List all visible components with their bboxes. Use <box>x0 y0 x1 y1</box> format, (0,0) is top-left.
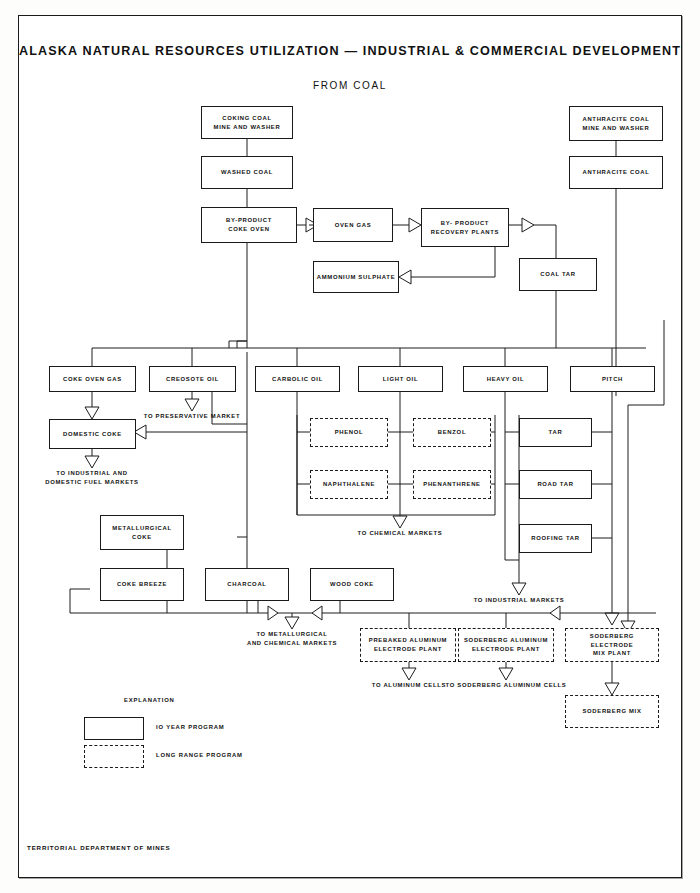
footer-credit: TERRITORIAL DEPARTMENT OF MINES <box>27 844 171 851</box>
node-line1: WOOD COKE <box>330 580 374 589</box>
node-line2: MINE AND WASHER <box>214 123 281 132</box>
node-recovery-plants[interactable]: BY- PRODUCT RECOVERY PLANTS <box>421 208 509 247</box>
node-soderberg-aluminum[interactable]: SODERBERG ALUMINUM ELECTRODE PLANT <box>458 628 554 662</box>
diagram-sheet: ALASKA NATURAL RESOURCES UTILIZATION — I… <box>0 0 700 893</box>
label-to-industrial-fuel-markets: TO INDUSTRIAL AND DOMESTIC FUEL MARKETS <box>22 469 162 487</box>
node-benzol[interactable]: BENZOL <box>413 418 491 447</box>
node-phenanthrene[interactable]: PHENANTHRENE <box>413 470 491 499</box>
node-coke-breeze[interactable]: COKE BREEZE <box>100 568 184 601</box>
node-line2: COKE OVEN <box>228 225 270 234</box>
node-line1: METALLURGICAL <box>112 524 171 533</box>
node-line1: BY- PRODUCT <box>441 219 489 228</box>
node-line1: PHENOL <box>335 428 364 437</box>
label-line2: AND CHEMICAL MARKETS <box>247 640 337 646</box>
node-oven-gas[interactable]: OVEN GAS <box>313 208 393 242</box>
node-coking-coal[interactable]: COKING COAL MINE AND WASHER <box>201 106 293 139</box>
legend-swatch-dashed <box>84 745 144 768</box>
label-to-metallurgical-chemical-markets: TO METALLURGICAL AND CHEMICAL MARKETS <box>222 630 362 648</box>
node-line1: CHARCOAL <box>227 580 266 589</box>
node-coal-tar[interactable]: COAL TAR <box>519 258 597 291</box>
node-carbolic-oil[interactable]: CARBOLIC OIL <box>255 366 340 392</box>
node-line1: OVEN GAS <box>335 221 372 230</box>
node-line2: COKE <box>132 533 152 542</box>
node-line1: CREOSOTE OIL <box>166 375 219 384</box>
node-wood-coke[interactable]: WOOD COKE <box>310 568 394 601</box>
node-soderberg-mix[interactable]: SODERBERG MIX <box>565 695 659 728</box>
node-creosote-oil[interactable]: CREOSOTE OIL <box>149 366 236 392</box>
node-line1: WASHED COAL <box>221 168 273 177</box>
node-phenol[interactable]: PHENOL <box>310 418 388 447</box>
legend-label-long-range: LONG RANGE PROGRAM <box>156 752 243 758</box>
node-line1: CARBOLIC OIL <box>272 375 323 384</box>
legend-swatch-solid <box>84 717 144 740</box>
node-line1: SODERBERG ALUMINUM <box>464 636 548 645</box>
node-line2: RECOVERY PLANTS <box>431 228 499 237</box>
node-tar[interactable]: TAR <box>519 418 592 447</box>
label-line1: TO METALLURGICAL <box>256 631 327 637</box>
node-line1: HEAVY OIL <box>487 375 525 384</box>
node-line2: MIX PLANT <box>593 649 631 658</box>
node-coke-oven-gas[interactable]: COKE OVEN GAS <box>49 366 136 392</box>
node-line1: AMMONIUM SULPHATE <box>317 273 396 282</box>
label-to-soderberg-aluminum-cells: TO SODERBERG ALUMINUM CELLS <box>438 681 574 690</box>
node-line1: BY-PRODUCT <box>226 216 272 225</box>
node-washed-coal[interactable]: WASHED COAL <box>201 156 293 189</box>
node-line1: ANTHRACITE COAL <box>582 115 649 124</box>
node-line1: ANTHRACITE COAL <box>582 168 649 177</box>
node-charcoal[interactable]: CHARCOAL <box>205 568 289 601</box>
node-line2: ELECTRODE PLANT <box>374 645 442 654</box>
node-prebaked-aluminum[interactable]: PREBAKED ALUMINUM ELECTRODE PLANT <box>360 628 456 662</box>
node-line1: COKING COAL <box>222 114 272 123</box>
node-line1: SODERBERG MIX <box>582 707 641 716</box>
node-light-oil[interactable]: LIGHT OIL <box>358 366 443 392</box>
node-line1: COAL TAR <box>540 270 576 279</box>
label-line2: DOMESTIC FUEL MARKETS <box>45 479 138 485</box>
node-metallurgical-coke[interactable]: METALLURGICAL COKE <box>100 515 184 550</box>
node-line1: PITCH <box>602 375 623 384</box>
node-ammonium-sulphate[interactable]: AMMONIUM SULPHATE <box>313 261 399 293</box>
node-line1: ROAD TAR <box>537 480 573 489</box>
legend-heading: EXPLANATION <box>124 697 175 703</box>
label-line1: TO INDUSTRIAL MARKETS <box>474 597 565 603</box>
legend-label-10-year: IO YEAR PROGRAM <box>156 724 225 730</box>
node-heavy-oil[interactable]: HEAVY OIL <box>463 366 548 392</box>
label-line1: TO INDUSTRIAL AND <box>56 470 127 476</box>
node-pitch[interactable]: PITCH <box>570 366 655 392</box>
node-anthracite-coal[interactable]: ANTHRACITE COAL <box>569 156 663 189</box>
node-line1: PREBAKED ALUMINUM <box>369 636 447 645</box>
node-line1: COKE OVEN GAS <box>63 375 122 384</box>
node-road-tar[interactable]: ROAD TAR <box>519 470 592 499</box>
node-domestic-coke[interactable]: DOMESTIC COKE <box>49 419 136 449</box>
node-line2: ELECTRODE PLANT <box>472 645 540 654</box>
node-line1: BENZOL <box>438 428 466 437</box>
node-naphthalene[interactable]: NAPHTHALENE <box>310 470 388 499</box>
node-line1: DOMESTIC COKE <box>63 430 122 439</box>
label-line1: TO CHEMICAL MARKETS <box>358 530 443 536</box>
label-line1: TO PRESERVATIVE MARKET <box>144 413 240 419</box>
node-line1: TAR <box>549 428 563 437</box>
node-roofing-tar[interactable]: ROOFING TAR <box>519 524 592 553</box>
node-line1: NAPHTHALENE <box>323 480 375 489</box>
label-to-preservative-market: TO PRESERVATIVE MARKET <box>92 412 292 421</box>
node-line2: MINE AND WASHER <box>583 124 650 133</box>
node-line1: LIGHT OIL <box>383 375 418 384</box>
node-line1: COKE BREEZE <box>117 580 167 589</box>
node-anthracite-mine[interactable]: ANTHRACITE COAL MINE AND WASHER <box>569 106 663 141</box>
node-line1: SODERBERG ELECTRODE <box>568 632 656 649</box>
label-to-chemical-markets: TO CHEMICAL MARKETS <box>330 529 470 538</box>
label-to-industrial-markets: TO INDUSTRIAL MARKETS <box>449 596 589 605</box>
label-line1: TO ALUMINUM CELLS <box>372 682 446 688</box>
node-line1: PHENANTHRENE <box>423 480 481 489</box>
node-line1: ROOFING TAR <box>531 534 580 543</box>
label-line1: TO SODERBERG ALUMINUM CELLS <box>445 682 566 688</box>
legend: EXPLANATION IO YEAR PROGRAM LONG RANGE P… <box>84 697 314 765</box>
node-soderberg-mix-plant[interactable]: SODERBERG ELECTRODE MIX PLANT <box>565 628 659 662</box>
node-byproduct-coke-oven[interactable]: BY-PRODUCT COKE OVEN <box>201 207 297 243</box>
